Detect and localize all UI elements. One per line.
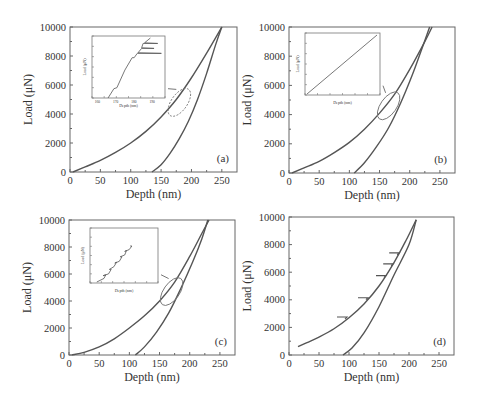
y-tick-label: 6000	[44, 269, 65, 280]
y-tick-label: 8000	[44, 242, 65, 253]
x-tick-label: 50	[95, 175, 106, 186]
x-tick-label: 200	[182, 358, 198, 369]
y-tick-label: 6000	[264, 80, 285, 91]
y-tick-label: 4000	[264, 294, 285, 305]
zoom-region-ellipse	[164, 85, 195, 120]
inset-y-label: Load (μN)	[82, 58, 87, 76]
panel-a: 0501001502002500200040006000800010000Dep…	[21, 22, 237, 202]
x-tick-label: 250	[212, 358, 228, 369]
y-tick-label: 6000	[45, 80, 66, 91]
y-axis-label: Load (μN)	[240, 261, 254, 312]
panel-d: 0501001502002500200040006000800010000Dep…	[240, 212, 454, 385]
x-tick-label: 150	[372, 176, 388, 187]
x-tick-label: 150	[371, 358, 387, 369]
x-tick-label: 200	[402, 176, 418, 187]
y-tick-label: 4000	[264, 109, 285, 120]
x-tick-label: 0	[66, 358, 71, 369]
inset-x-label: Depth (nm)	[333, 100, 352, 105]
y-tick-label: 8000	[45, 51, 66, 62]
x-axis-label: Depth (nm)	[126, 187, 182, 201]
y-axis-label: Load (μN)	[21, 74, 35, 125]
pop-in-marker	[337, 317, 347, 319]
pop-in-marker	[383, 264, 393, 266]
y-tick-label: 8000	[264, 239, 285, 250]
x-tick-label: 50	[314, 358, 325, 369]
y-tick-label: 2000	[264, 138, 285, 149]
inset-y-label: Load (μN)	[295, 55, 300, 73]
inset-y-label: Load (μN)	[80, 246, 85, 264]
y-tick-label: 2000	[45, 138, 66, 149]
y-tick-label: 10000	[259, 22, 285, 33]
panel-label: (a)	[217, 152, 230, 165]
arrow-icon	[161, 275, 169, 279]
inset-plot: Depth (nm)Load (μN)	[80, 228, 158, 293]
x-tick-label: 200	[401, 358, 417, 369]
pop-in-marker	[376, 276, 386, 278]
y-tick-label: 2000	[44, 323, 65, 334]
x-tick-label: 50	[314, 176, 325, 187]
x-tick-label: 100	[121, 358, 137, 369]
x-tick-label: 200	[184, 175, 200, 186]
pop-in-marker	[389, 253, 399, 255]
pop-in-marker	[358, 298, 368, 300]
y-tick-label: 10000	[40, 22, 66, 33]
x-tick-label: 250	[431, 358, 447, 369]
y-tick-label: 0	[280, 168, 285, 179]
y-axis-label: Load (μN)	[20, 262, 34, 313]
y-tick-label: 6000	[264, 267, 285, 278]
panel-label: (b)	[434, 153, 447, 166]
x-tick-label: 50	[94, 358, 105, 369]
series-loading	[298, 220, 416, 347]
x-tick-label: 0	[286, 176, 291, 187]
inset-frame	[92, 36, 165, 98]
inset-x-tick-label: 170	[113, 100, 119, 104]
y-tick-label: 2000	[264, 322, 285, 333]
x-tick-label: 100	[341, 176, 357, 187]
y-tick-label: 0	[280, 350, 285, 361]
inset-x-label: Depth (nm)	[115, 288, 134, 293]
x-tick-label: 150	[152, 358, 168, 369]
y-tick-label: 0	[61, 167, 66, 178]
x-axis-label: Depth (nm)	[124, 370, 180, 384]
inset-x-tick-label: 190	[150, 100, 156, 104]
x-axis-label: Depth (nm)	[344, 370, 400, 384]
panel-label: (c)	[215, 335, 228, 348]
inset-plot: Depth (nm)Load (μN)	[295, 33, 380, 105]
inset-plot: Depth (nm)Load (μN)160170180190	[82, 36, 165, 108]
zoom-region-ellipse	[156, 274, 187, 309]
x-tick-label: 0	[67, 175, 72, 186]
arrow-icon	[168, 89, 176, 90]
y-tick-label: 10000	[259, 212, 285, 223]
panel-b: 0501001502002500200040006000800010000Dep…	[240, 22, 455, 203]
panel-label: (d)	[433, 335, 446, 348]
panel-c: 0501001502002500200040006000800010000Dep…	[20, 215, 235, 385]
y-tick-label: 4000	[45, 109, 66, 120]
inset-x-tick-label: 160	[95, 100, 101, 104]
x-tick-label: 150	[153, 175, 169, 186]
x-axis-label: Depth (nm)	[344, 188, 400, 202]
arrow-icon	[383, 86, 386, 93]
x-tick-label: 0	[286, 358, 291, 369]
y-tick-label: 10000	[39, 215, 65, 226]
y-tick-label: 0	[60, 350, 65, 361]
y-axis-label: Load (μN)	[240, 75, 254, 126]
figure: 0501001502002500200040006000800010000Dep…	[0, 0, 478, 403]
x-tick-label: 250	[432, 176, 448, 187]
inset-x-tick-label: 180	[131, 100, 137, 104]
x-tick-label: 250	[214, 175, 230, 186]
series-unloading	[343, 220, 416, 355]
x-tick-label: 100	[341, 358, 357, 369]
x-tick-label: 100	[123, 175, 139, 186]
plot-frame	[289, 217, 454, 355]
y-tick-label: 8000	[264, 51, 285, 62]
y-tick-label: 4000	[44, 296, 65, 307]
